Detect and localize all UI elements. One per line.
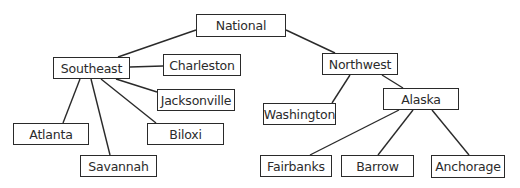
node-label: Charleston [169,58,235,73]
edge-southeast-charleston [130,66,163,67]
node-label: Anchorage [435,159,501,174]
node-label: Southeast [61,61,122,76]
node-savannah: Savannah [80,155,157,177]
node-label: National [216,18,267,33]
node-southeast: Southeast [53,57,130,79]
edge-southeast-atlanta [63,79,80,123]
edge-alaska-barrow [378,110,413,155]
node-biloxi: Biloxi [147,123,224,145]
node-label: Northwest [329,57,392,72]
node-national: National [196,14,286,37]
edge-northwest-alaska [382,75,403,88]
node-barrow: Barrow [341,155,414,177]
node-northwest: Northwest [322,53,398,75]
edge-national-northwest [286,30,335,53]
node-alaska: Alaska [383,88,459,110]
node-atlanta: Atlanta [13,123,89,145]
node-label: Washington [264,107,335,122]
edge-southeast-jacksonville [116,79,157,92]
node-label: Alaska [401,92,441,107]
node-label: Barrow [356,159,399,174]
node-label: Fairbanks [267,159,325,174]
node-jacksonville: Jacksonville [157,89,235,111]
edge-alaska-anchorage [432,110,469,155]
node-charleston: Charleston [163,54,241,76]
node-washington: Washington [263,103,336,125]
node-label: Jacksonville [161,93,232,108]
node-anchorage: Anchorage [431,155,505,178]
node-label: Savannah [88,159,148,174]
node-fairbanks: Fairbanks [260,155,332,177]
edge-southeast-biloxi [101,79,156,123]
node-label: Atlanta [29,127,72,142]
edge-southeast-savannah [91,79,110,155]
edge-national-southeast [118,30,196,57]
node-label: Biloxi [169,127,201,142]
edge-northwest-washington [332,75,350,103]
org-tree-diagram: National Southeast Charleston Jacksonvil… [0,0,520,188]
